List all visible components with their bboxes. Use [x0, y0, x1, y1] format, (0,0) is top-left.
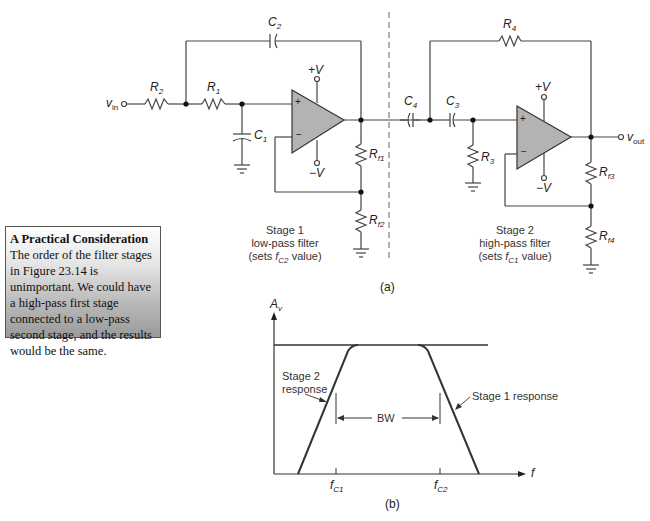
r3-label: R3 [481, 150, 494, 166]
resistor-r1 [202, 99, 225, 109]
note-body: The order of the filter stages in Figure… [10, 247, 156, 359]
opamp1-plus-input: + [295, 96, 301, 107]
rf3-label: Rf3 [599, 165, 614, 181]
stage1-response-curve [418, 345, 479, 474]
part-a-label: (a) [380, 280, 395, 294]
stage1-caption: Stage 1 low-pass filter (sets fC2 value) [240, 224, 330, 267]
av-axis-label: Av [270, 297, 282, 313]
f-axis-label: f [531, 466, 534, 480]
r4-label: R4 [503, 17, 516, 33]
opamp1-plus-supply: +V [308, 63, 323, 77]
stage2-caption: Stage 2 high-pass filter (sets fC1 value… [470, 224, 560, 267]
resistor-r4 [499, 36, 521, 46]
opamp2-minus-supply: −V [536, 181, 551, 195]
vin-terminal [122, 102, 127, 107]
resistor-r3 [468, 145, 478, 167]
opamp2-plus-input: + [520, 113, 526, 124]
resistor-rf3 [586, 162, 596, 184]
opamp2-minus-input: − [521, 146, 527, 157]
resistor-r2 [145, 99, 168, 109]
stage2-response-curve [298, 345, 358, 474]
rf1-label: Rf1 [369, 147, 384, 163]
bw-label: BW [377, 412, 395, 424]
vout-label: vout [627, 130, 644, 146]
c4-label: C4 [404, 94, 417, 110]
part-b-label: (b) [385, 497, 400, 511]
opamp1-minus-supply: −V [309, 166, 324, 180]
opamp2-plus-supply: +V [535, 80, 550, 94]
stage2-response-label: Stage 2 response [282, 370, 327, 396]
vin-label: vin [106, 96, 118, 112]
rf2-label: Rf2 [369, 213, 384, 229]
fc1-tick-label: fC1 [330, 478, 344, 494]
c3-label: C3 [446, 94, 459, 110]
resistor-rf4 [586, 226, 596, 248]
resistor-rf1 [356, 144, 366, 166]
fc2-tick-label: fC2 [434, 478, 448, 494]
practical-consideration-note: A Practical Consideration The order of t… [5, 226, 161, 338]
c1-label: C1 [254, 128, 267, 144]
stage1-response-label: Stage 1 response [472, 390, 558, 402]
opamp1-minus-input: − [296, 129, 302, 140]
r1-label: R1 [207, 80, 220, 96]
note-title: A Practical Consideration [10, 231, 156, 247]
resistor-rf2 [356, 210, 366, 232]
rf4-label: Rf4 [599, 229, 614, 245]
vout-terminal [619, 135, 624, 140]
c2-label: C2 [268, 15, 281, 31]
r2-label: R2 [150, 80, 163, 96]
